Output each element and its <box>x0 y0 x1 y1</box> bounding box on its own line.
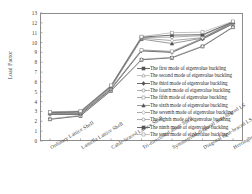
legend-item[interactable]: The fourth mode of eigenvalue buckling <box>137 87 241 94</box>
legend-marker-icon <box>137 87 150 94</box>
legend-marker-icon <box>137 116 150 123</box>
legend-item[interactable]: The first mode of eigenvalue buckling <box>137 65 241 72</box>
legend-marker-icon <box>137 124 150 131</box>
legend-item[interactable]: The seventh mode of eigenvalue buckling <box>137 109 241 116</box>
legend-marker-icon <box>137 72 150 79</box>
legend-label: The fifth mode of eigenvalue buckling <box>150 94 227 101</box>
legend: The first mode of eigenvalue bucklingThe… <box>137 65 241 138</box>
legend-item[interactable]: The ninth mode of eigenvalue buckling <box>137 123 241 130</box>
legend-marker-icon <box>137 65 150 72</box>
legend-label: The ninth mode of eigenvalue buckling <box>150 124 228 131</box>
chart-figure: Load Factor 012345678910111213 Ordinary … <box>0 0 252 194</box>
legend-item[interactable]: The sixth mode of eigenvalue buckling <box>137 101 241 108</box>
legend-marker-icon <box>137 102 150 109</box>
legend-label: The fourth mode of eigenvalue buckling <box>150 87 230 94</box>
legend-item[interactable]: The eighth mode of eigenvalue buckling <box>137 116 241 123</box>
legend-item[interactable]: The third mode of eigenvalue buckling <box>137 80 241 87</box>
legend-item[interactable]: The fifth mode of eigenvalue buckling <box>137 94 241 101</box>
legend-item[interactable]: The tenth mode of eigenvalue buckling <box>137 131 241 138</box>
legend-item[interactable]: The second mode of eigenvalue buckling <box>137 72 241 79</box>
legend-marker-icon <box>137 109 150 116</box>
legend-label: The second mode of eigenvalue buckling <box>150 72 232 79</box>
legend-label: The tenth mode of eigenvalue buckling <box>150 131 228 138</box>
legend-label: The eighth mode of eigenvalue buckling <box>150 116 231 123</box>
legend-label: The first mode of eigenvalue buckling <box>150 65 226 72</box>
legend-label: The third mode of eigenvalue buckling <box>150 80 228 87</box>
legend-marker-icon <box>137 94 150 101</box>
legend-marker-icon <box>137 131 150 138</box>
legend-marker-icon <box>137 80 150 87</box>
legend-label: The sixth mode of eigenvalue buckling <box>150 102 228 109</box>
legend-label: The seventh mode of eigenvalue buckling <box>150 109 233 116</box>
